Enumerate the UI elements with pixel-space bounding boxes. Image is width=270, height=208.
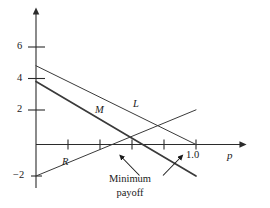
minimum-payoff-line-1: Minimum	[109, 173, 151, 184]
figure-container: 6 4 2 −2 1.0 p L M R Minimum payoff	[0, 0, 270, 208]
line-L	[36, 66, 196, 145]
line-M	[36, 82, 196, 177]
y-tick-label-2: 2	[17, 104, 22, 115]
x-axis-label: p	[227, 150, 233, 161]
minimum-payoff-annotation: Minimum payoff	[101, 174, 159, 198]
y-tick-label-minus-2: −2	[13, 170, 24, 181]
y-tick-label-4: 4	[17, 73, 22, 84]
data-lines	[36, 66, 196, 176]
minimum-payoff-line-2: payoff	[101, 188, 159, 199]
curve-label-L: L	[133, 99, 139, 110]
curve-label-M: M	[95, 105, 104, 116]
y-tick-label-6: 6	[17, 41, 22, 52]
x-tick-label-1p0: 1.0	[186, 150, 199, 161]
curve-label-R: R	[62, 157, 68, 168]
